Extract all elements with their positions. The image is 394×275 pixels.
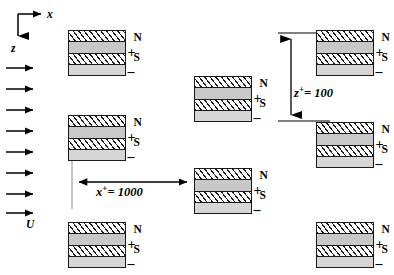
magnet-layer-lower-gap: [69, 257, 125, 267]
magnet-label-north: N: [382, 224, 390, 236]
magnet-layer-upper-gap: [195, 88, 251, 99]
magnet-label-north: N: [260, 170, 268, 182]
magnet-layer-south-electrode: [317, 54, 373, 65]
freestream-velocity-label: U: [26, 219, 34, 231]
magnet-label-negative: –: [376, 65, 383, 79]
axis-indicator: [18, 14, 41, 36]
magnet-layer-upper-gap: [317, 134, 373, 145]
magnet-mid-left: [68, 115, 126, 161]
magnet-layer-south-electrode: [317, 146, 373, 157]
magnet-center-lower: [194, 168, 252, 214]
magnet-label-north: N: [134, 32, 142, 44]
magnet-mid-right: [316, 122, 374, 168]
z-plus-dimension-label: z+= 100: [294, 87, 333, 100]
magnet-layer-upper-gap: [317, 234, 373, 245]
magnet-layer-lower-gap: [69, 65, 125, 75]
magnet-bottom-right: [316, 222, 374, 268]
magnet-label-north: N: [382, 124, 390, 136]
magnet-center-upper: [194, 76, 252, 122]
flow-arrow-group: [6, 68, 33, 213]
magnet-label-negative: –: [376, 257, 383, 271]
magnet-label-negative: –: [376, 157, 383, 171]
magnet-layer-upper-gap: [195, 180, 251, 191]
magnet-label-south: S: [382, 244, 388, 256]
magnet-layer-south-electrode: [69, 246, 125, 257]
magnet-layer-upper-gap: [69, 127, 125, 138]
magnet-label-negative: –: [128, 65, 135, 79]
magnet-top-left: [68, 30, 126, 76]
magnet-label-south: S: [134, 137, 140, 149]
magnet-label-south: S: [382, 52, 388, 64]
magnet-top-right: [316, 30, 374, 76]
magnet-layer-south-electrode: [195, 100, 251, 111]
magnet-bottom-left: [68, 222, 126, 268]
magnet-label-south: S: [260, 190, 266, 202]
x-plus-dimension-label: x+= 1000: [96, 186, 143, 199]
magnet-layer-north-electrode: [195, 77, 251, 88]
magnet-layer-south-electrode: [317, 246, 373, 257]
magnet-label-south: S: [260, 98, 266, 110]
magnet-layer-north-electrode: [317, 31, 373, 42]
z-axis-label: z: [11, 43, 15, 55]
magnet-layer-north-electrode: [69, 116, 125, 127]
x-axis-label: x: [47, 9, 53, 21]
z-plus-value: = 100: [304, 86, 333, 100]
magnet-label-north: N: [260, 78, 268, 90]
magnet-layer-north-electrode: [317, 123, 373, 134]
magnet-label-north: N: [382, 32, 390, 44]
magnet-layer-lower-gap: [69, 150, 125, 160]
magnet-layer-north-electrode: [69, 223, 125, 234]
magnet-layer-upper-gap: [317, 42, 373, 53]
magnet-label-south: S: [134, 52, 140, 64]
magnet-layer-north-electrode: [195, 169, 251, 180]
magnet-label-negative: –: [128, 150, 135, 164]
magnet-layer-south-electrode: [69, 139, 125, 150]
magnet-label-negative: –: [128, 257, 135, 271]
magnet-layer-south-electrode: [69, 54, 125, 65]
diagram-canvas: x z U x+= 1000 z+= 100 N+S–N+S–N+S–N+S–N…: [0, 0, 394, 275]
magnet-label-south: S: [134, 244, 140, 256]
magnet-label-negative: –: [254, 111, 261, 125]
magnet-layer-upper-gap: [69, 42, 125, 53]
magnet-layer-north-electrode: [317, 223, 373, 234]
magnet-layer-lower-gap: [317, 157, 373, 167]
magnet-layer-north-electrode: [69, 31, 125, 42]
magnet-layer-south-electrode: [195, 192, 251, 203]
magnet-layer-lower-gap: [317, 65, 373, 75]
magnet-layer-lower-gap: [195, 111, 251, 121]
magnet-label-north: N: [134, 224, 142, 236]
magnet-label-north: N: [134, 117, 142, 129]
magnet-layer-lower-gap: [317, 257, 373, 267]
magnet-layer-lower-gap: [195, 203, 251, 213]
magnet-label-south: S: [382, 144, 388, 156]
magnet-layer-upper-gap: [69, 234, 125, 245]
x-plus-value: = 1000: [107, 185, 142, 199]
magnet-label-negative: –: [254, 203, 261, 217]
x-plus-dimension-graphic: [72, 157, 187, 209]
